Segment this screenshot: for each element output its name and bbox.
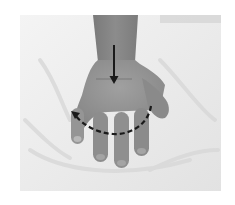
hand-illustration	[20, 15, 221, 191]
finger-middle	[114, 112, 129, 168]
fingernail-pinky	[74, 136, 82, 142]
fingernail-index	[137, 148, 146, 154]
fingernail-middle	[117, 160, 126, 166]
fingernail-ring	[96, 154, 105, 160]
cloth-edge-shadow	[160, 15, 221, 23]
forearm	[93, 15, 138, 62]
hand-photo	[20, 15, 221, 191]
